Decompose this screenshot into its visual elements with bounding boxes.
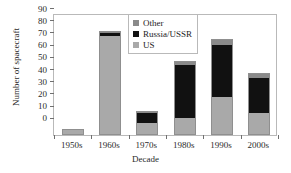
legend-item-us[interactable]: US — [133, 39, 192, 50]
bar-1960s[interactable] — [99, 31, 121, 135]
x-axis-tick-label-1960s: 1960s — [98, 140, 120, 150]
bar-1970s[interactable] — [136, 111, 158, 135]
y-axis-tick-label: 40 — [38, 65, 50, 75]
y-axis-tick-mark — [50, 8, 54, 9]
x-axis-tick-mark — [91, 135, 92, 139]
legend-item-other[interactable]: Other — [133, 17, 192, 28]
bar-2000s[interactable] — [248, 73, 270, 135]
bar-1950s[interactable] — [62, 129, 84, 135]
y-axis-tick-label: 50 — [38, 52, 50, 62]
y-axis-tick-label: 70 — [38, 28, 50, 38]
x-axis-title: Decade — [0, 154, 291, 164]
legend-swatch-icon — [133, 20, 139, 26]
y-axis-tick-label: 20 — [38, 89, 50, 99]
y-axis-tick-mark — [50, 45, 54, 46]
bar-segment-russia-ussr — [174, 65, 196, 117]
bar-segment-us — [62, 129, 84, 135]
x-axis-tick-mark — [278, 135, 279, 139]
y-axis-tick-mark — [50, 69, 54, 70]
chart-legend: OtherRussia/USSRUS — [128, 14, 198, 54]
bar-1980s[interactable] — [174, 61, 196, 135]
x-axis-tick-mark — [129, 135, 130, 139]
bar-segment-us — [136, 123, 158, 135]
y-axis-title: Number of spacecraft — [11, 7, 21, 127]
legend-item-russia-ussr[interactable]: Russia/USSR — [133, 28, 192, 39]
y-axis-tick-label: 80 — [38, 16, 50, 26]
y-axis-tick-label: 100 — [34, 0, 51, 1]
y-axis-tick-label: 0 — [43, 113, 51, 123]
bar-segment-russia-ussr — [211, 45, 233, 97]
bar-segment-us — [174, 118, 196, 135]
y-axis-tick-mark — [50, 106, 54, 107]
y-axis-tick-label: 10 — [38, 101, 50, 111]
y-axis-tick-label: 60 — [38, 40, 50, 50]
legend-label: US — [143, 40, 155, 50]
y-axis-tick-label: 30 — [38, 77, 50, 87]
y-axis-tick-mark — [50, 81, 54, 82]
x-axis-tick-mark — [241, 135, 242, 139]
y-axis-tick-mark — [50, 118, 54, 119]
bar-segment-us — [248, 113, 270, 135]
y-axis-tick-mark — [50, 20, 54, 21]
bar-segment-russia-ussr — [248, 78, 270, 113]
y-axis-tick-mark — [50, 32, 54, 33]
bar-segment-us — [211, 97, 233, 135]
x-axis-tick-label-1990s: 1990s — [210, 140, 232, 150]
y-axis-tick-mark — [50, 93, 54, 94]
x-axis-tick-mark — [203, 135, 204, 139]
chart-figure: Number of spacecraft 0102030405060708090… — [0, 0, 291, 173]
legend-swatch-icon — [133, 42, 139, 48]
x-axis-tick-label-1970s: 1970s — [136, 140, 158, 150]
x-axis-tick-label-1980s: 1980s — [173, 140, 195, 150]
y-axis-tick: 100 — [34, 0, 55, 4]
y-axis-tick-label: 90 — [38, 4, 50, 14]
bar-segment-russia-ussr — [136, 113, 158, 123]
bar-1990s[interactable] — [211, 39, 233, 135]
bar-segment-us — [99, 36, 121, 135]
x-axis-tick-label-2000s: 2000s — [248, 140, 270, 150]
x-axis-tick-mark — [54, 135, 55, 139]
legend-swatch-icon — [133, 31, 139, 37]
x-axis-tick-mark — [166, 135, 167, 139]
y-axis-tick-mark — [50, 57, 54, 58]
legend-label: Russia/USSR — [143, 29, 192, 39]
x-axis-tick-label-1950s: 1950s — [61, 140, 83, 150]
legend-label: Other — [143, 18, 164, 28]
